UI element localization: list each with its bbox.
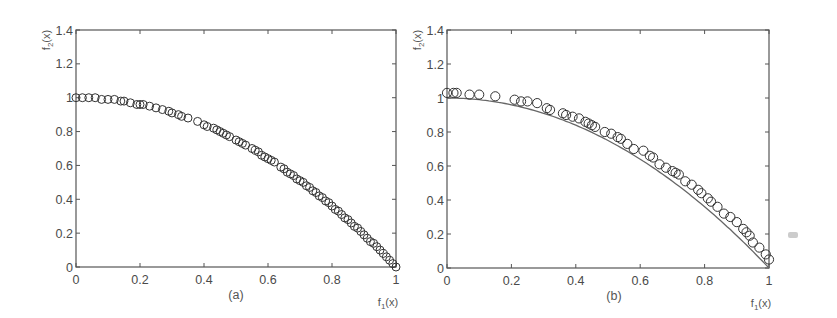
y-axis-label: f2(x): [40, 30, 55, 50]
figure: 00.20.40.60.8100.20.40.60.811.21.4f2(x)f…: [0, 0, 837, 318]
x-tick-label: 1: [393, 273, 400, 287]
x-tick-label: 0.2: [131, 273, 148, 287]
data-point: [475, 90, 484, 99]
x-tick-label: 0.4: [195, 273, 212, 287]
y-tick-label: 0.6: [427, 160, 444, 174]
data-point: [376, 246, 384, 254]
scatter-markers: [72, 94, 400, 271]
x-axis-label: f1(x): [378, 296, 398, 311]
y-tick-label: 0: [66, 261, 73, 275]
scatter-markers: [442, 88, 773, 264]
x-tick-label: 0.4: [567, 274, 584, 288]
data-point: [373, 243, 381, 251]
data-point: [510, 95, 519, 104]
y-tick-label: 0: [437, 262, 444, 276]
x-tick-label: 0.8: [323, 273, 340, 287]
x-tick-label: 1: [766, 274, 773, 288]
y-axis-label: f2(x): [411, 30, 426, 50]
x-tick-label: 0: [73, 273, 80, 287]
data-point: [629, 144, 638, 153]
pareto-front-line: [447, 98, 769, 268]
data-point: [568, 112, 577, 121]
data-point: [357, 227, 365, 235]
plot-panel-b: 00.20.40.60.8100.20.40.60.811.21.4f2(x)f…: [411, 24, 774, 313]
panel-caption: (b): [606, 289, 621, 303]
data-point: [545, 105, 554, 114]
y-tick-label: 0.4: [427, 194, 444, 208]
x-tick-label: 0.6: [259, 273, 276, 287]
data-point: [533, 99, 542, 108]
axes-frame: [447, 30, 769, 268]
y-tick-label: 0.8: [56, 125, 73, 139]
y-tick-label: 1.2: [56, 57, 73, 71]
data-point: [639, 146, 648, 155]
y-tick-label: 0.8: [427, 126, 444, 140]
data-point: [386, 256, 394, 264]
x-tick-label: 0.2: [503, 274, 520, 288]
y-tick-label: 1.4: [427, 24, 444, 38]
y-tick-label: 0.6: [56, 159, 73, 173]
y-tick-label: 0.2: [56, 227, 73, 241]
x-tick-label: 0: [444, 274, 451, 288]
data-point: [360, 231, 368, 239]
data-point: [523, 97, 532, 106]
axes-frame: [76, 30, 396, 267]
data-point: [623, 139, 632, 148]
data-point: [465, 90, 474, 99]
y-tick-label: 1.2: [427, 58, 444, 72]
data-point: [491, 92, 500, 101]
x-tick-label: 0.6: [632, 274, 649, 288]
data-point: [382, 253, 390, 261]
data-point: [616, 134, 625, 143]
artifact-mark: [788, 232, 798, 238]
y-tick-label: 0.4: [56, 193, 73, 207]
x-tick-label: 0.8: [696, 274, 713, 288]
y-tick-label: 1.4: [56, 24, 73, 38]
y-tick-label: 1: [437, 92, 444, 106]
plot-panel-a: 00.20.40.60.8100.20.40.60.811.21.4f2(x)f…: [40, 24, 400, 312]
panel-caption: (a): [228, 288, 243, 302]
data-point: [562, 110, 571, 119]
data-point: [600, 127, 609, 136]
x-axis-label: f1(x): [751, 297, 771, 312]
data-point: [379, 249, 387, 257]
y-tick-label: 0.2: [427, 228, 444, 242]
